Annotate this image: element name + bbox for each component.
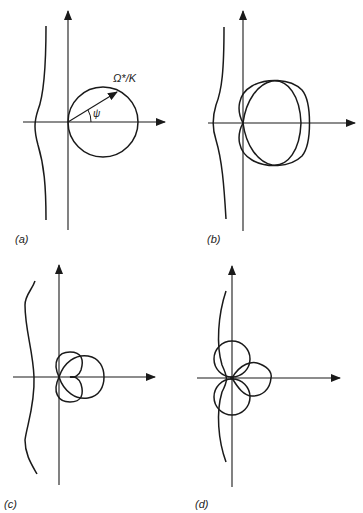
panel-a [23,11,165,230]
panel-a-angle-arc [88,110,91,122]
panel-a-radius-label: Ω*/K [113,72,136,84]
panel-b-label: (b) [207,233,220,245]
panel-a-label: (a) [15,233,28,245]
panel-c-label: (c) [4,498,17,510]
panel-a-boundary-curve [35,26,46,220]
panel-b [208,11,355,231]
panel-d-origin-dot [230,376,234,380]
panel-a-angle-label: ψ [93,108,100,119]
panel-c [13,265,155,485]
panel-d [197,266,340,487]
panel-d-label: (d) [195,498,208,510]
figure-canvas [0,0,363,513]
